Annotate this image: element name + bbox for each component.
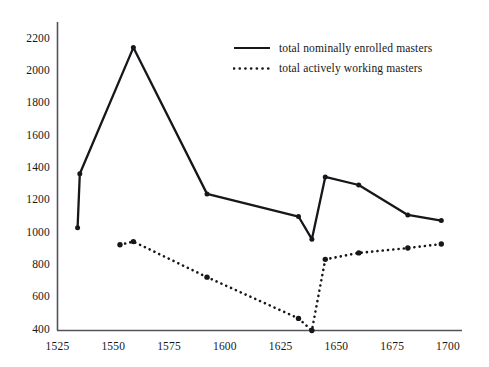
- legend-dotted-line-icon: [232, 62, 272, 74]
- chart-legend: total nominally enrolled masters total a…: [232, 38, 468, 78]
- data-point: [75, 225, 80, 230]
- x-axis-tick-1525: 1525: [34, 340, 82, 352]
- y-axis-tick-2200: 2200: [6, 32, 50, 44]
- y-axis-tick-600: 600: [6, 290, 50, 302]
- y-axis-tick-1200: 1200: [6, 193, 50, 205]
- series-markers-actively-working: [117, 239, 444, 333]
- x-axis-tick-1700: 1700: [424, 340, 472, 352]
- x-axis-tick-1675: 1675: [368, 340, 416, 352]
- data-point: [296, 214, 301, 219]
- data-point: [309, 328, 314, 333]
- series-line-actively-working: [120, 242, 441, 331]
- data-point: [439, 218, 444, 223]
- data-point: [204, 274, 209, 279]
- legend-item-nominally-enrolled: total nominally enrolled masters: [232, 38, 468, 58]
- data-point: [356, 183, 361, 188]
- data-point: [205, 191, 210, 196]
- legend-item-actively-working: total actively working masters: [232, 58, 468, 78]
- data-point: [439, 241, 444, 246]
- y-axis-tick-800: 800: [6, 258, 50, 270]
- data-point: [131, 45, 136, 50]
- x-axis-tick-1575: 1575: [145, 340, 193, 352]
- x-axis-tick-1625: 1625: [257, 340, 305, 352]
- y-axis-tick-400: 400: [6, 323, 50, 335]
- data-point: [296, 316, 301, 321]
- y-axis-tick-2000: 2000: [6, 64, 50, 76]
- data-point: [77, 171, 82, 176]
- y-axis-tick-1000: 1000: [6, 226, 50, 238]
- y-axis-tick-1600: 1600: [6, 129, 50, 141]
- data-point: [405, 212, 410, 217]
- data-point: [323, 257, 328, 262]
- data-point: [405, 245, 410, 250]
- data-point: [323, 174, 328, 179]
- chart-container: 4006008001000120014001600180020002200 15…: [0, 0, 489, 367]
- legend-label-nominally-enrolled: total nominally enrolled masters: [272, 42, 432, 54]
- data-point: [309, 237, 314, 242]
- y-axis-tick-1800: 1800: [6, 96, 50, 108]
- legend-label-actively-working: total actively working masters: [272, 62, 422, 74]
- legend-solid-line-icon: [232, 42, 272, 54]
- x-axis-tick-1550: 1550: [89, 340, 137, 352]
- data-point: [117, 242, 122, 247]
- data-point: [131, 239, 136, 244]
- data-point: [356, 250, 361, 255]
- y-axis-tick-1400: 1400: [6, 161, 50, 173]
- x-axis-tick-1600: 1600: [201, 340, 249, 352]
- x-axis-tick-1650: 1650: [312, 340, 360, 352]
